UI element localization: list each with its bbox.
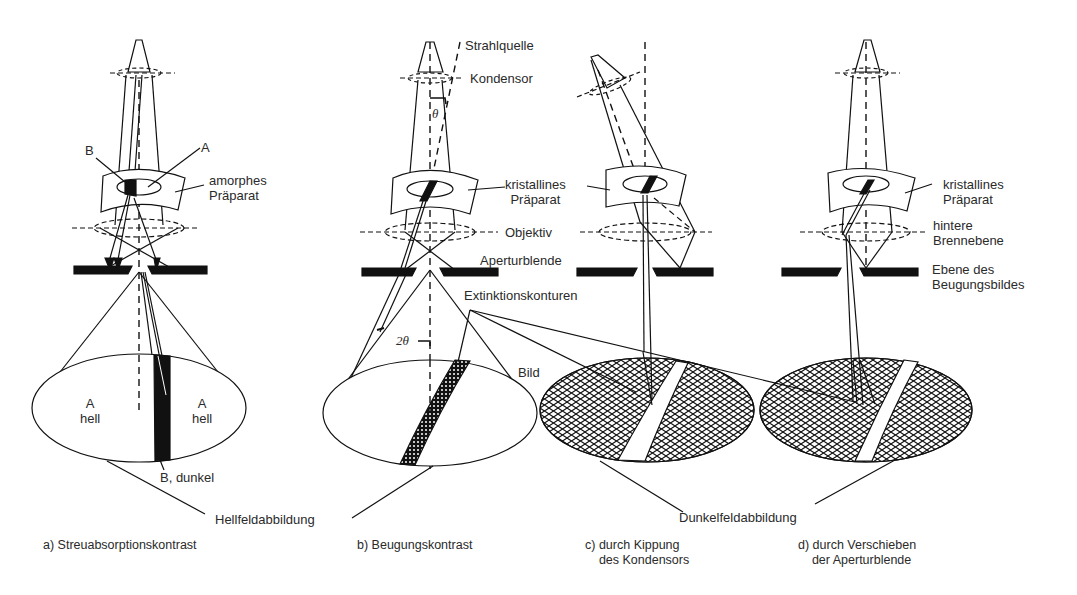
label-crystalline-specimen: kristallines Präparat — [505, 177, 566, 207]
label-theta: θ — [432, 106, 438, 121]
label-back-focal-plane: hintere Brennebene — [933, 218, 1004, 248]
label-image-dark-b: B, dunkel — [160, 470, 214, 485]
label-image-bright-right: A hell — [192, 396, 212, 426]
label-image: Bild — [518, 365, 540, 380]
label-aperture-diaphragm: Aperturblende — [480, 253, 562, 268]
label-condenser: Kondensor — [470, 71, 533, 86]
caption-panel-b: b) Beugungskontrast — [357, 538, 472, 553]
caption-panel-c: c) durch Kippung des Kondensors — [585, 538, 689, 568]
label-two-theta: 2θ — [396, 333, 409, 348]
caption-panel-d: d) durch Verschieben der Aperturblende — [798, 538, 916, 568]
label-dark-field-imaging: Dunkelfeldabbildung — [679, 510, 797, 525]
label-amorphous-specimen: amorphes Präparat — [209, 173, 267, 203]
caption-panel-a: a) Streuabsorptionskontrast — [43, 538, 197, 553]
panel-c-column — [540, 42, 754, 512]
label-image-bright-left: A hell — [80, 396, 100, 426]
label-diffraction-plane: Ebene des Beugungsbildes — [932, 262, 1025, 292]
label-crystalline-specimen-d: kristallines Präparat — [943, 177, 1004, 207]
panel-a-column — [32, 40, 246, 514]
label-extinction-contours: Extinktionskonturen — [464, 288, 577, 303]
label-bright-field-imaging: Hellfeldabbildung — [215, 512, 315, 527]
label-beam-source: Strahlquelle — [465, 38, 534, 53]
label-objective: Objektiv — [505, 225, 552, 240]
label-region-b: B — [85, 143, 94, 158]
label-region-a: A — [201, 140, 210, 155]
